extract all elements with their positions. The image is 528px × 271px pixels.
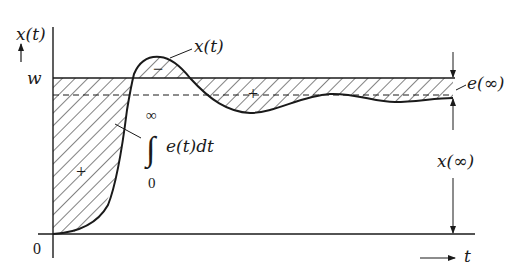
steady-error-label: e(∞) [467, 73, 505, 93]
initial-plus-sign: + [76, 162, 86, 182]
curve-label-leader [170, 49, 192, 58]
curve-label: x(t) [194, 36, 224, 56]
steady-value-label: x(∞) [437, 151, 474, 171]
integral-lower-limit: 0 [148, 175, 156, 191]
x-axis-label: t [464, 246, 471, 266]
integral-upper-limit: ∞ [146, 107, 157, 123]
integral-expression: e(t)dt [166, 136, 214, 156]
settling-plus-sign: + [248, 84, 258, 104]
y-axis-label: x(t) [16, 24, 46, 44]
reference-label: w [27, 68, 42, 88]
integral-sign: ∫ [144, 130, 158, 170]
error-label-leader [456, 85, 466, 90]
diagram-canvas: x(t) w 0 t x(t) − + + ∞ ∫ e(t)dt 0 e(∞) … [0, 0, 528, 271]
overshoot-minus-sign: − [153, 59, 163, 79]
origin-label: 0 [33, 240, 41, 257]
control-error-diagram: x(t) w 0 t x(t) − + + ∞ ∫ e(t)dt 0 e(∞) … [0, 0, 528, 271]
